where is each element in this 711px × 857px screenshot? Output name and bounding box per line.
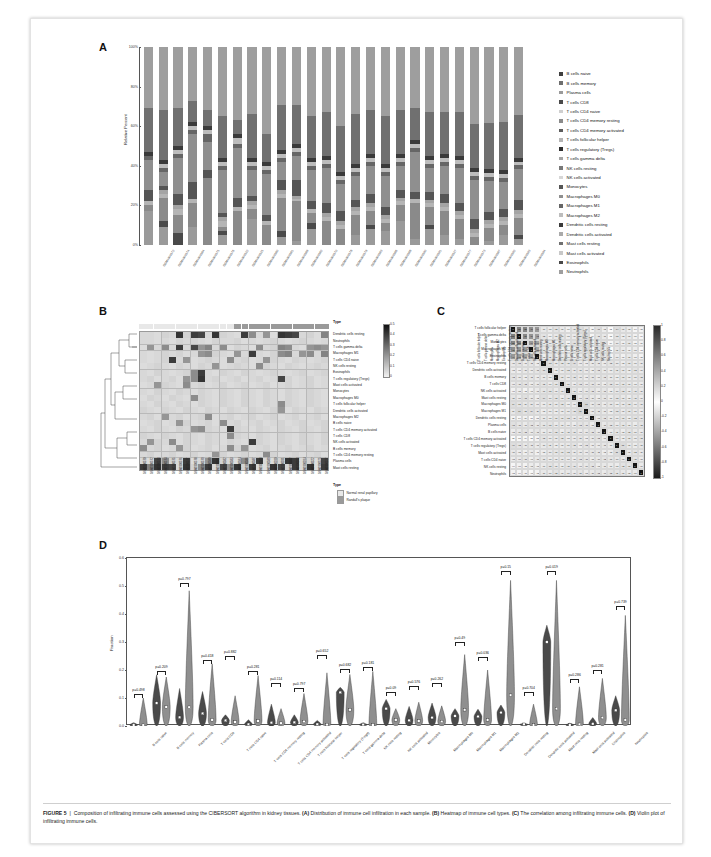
- panel-b-heatmap-cell: [154, 401, 161, 407]
- panel-a-bar-segment: [366, 166, 375, 194]
- panel-d-median-marker: [372, 724, 375, 726]
- panel-b-heatmap-cell: [162, 426, 169, 432]
- panel-b-heatmap-cell: [191, 433, 198, 439]
- panel-b-row-label: Dendritic cells activated: [333, 409, 368, 413]
- panel-b-heatmap-cell: [321, 382, 328, 388]
- panel-a-bar-segment: [455, 239, 464, 245]
- legend-swatch-icon: [559, 176, 563, 180]
- panel-b-heatmap-cell: [220, 433, 227, 439]
- panel-b-heatmap-cell: [292, 395, 299, 401]
- legend-swatch-icon: [559, 213, 563, 217]
- panel-b-heatmap-cell: [307, 439, 314, 445]
- panel-b-type-legend-item[interactable]: Normal renal papillary: [337, 490, 378, 497]
- panel-d-median-marker: [568, 724, 571, 726]
- legend-item[interactable]: NK cells activated: [559, 173, 709, 182]
- panel-c-correlation-cell: -.10: [638, 360, 644, 367]
- panel-a-stacked-bar: [292, 47, 301, 245]
- legend-item[interactable]: Macrophages M0: [559, 192, 709, 201]
- panel-b-group-cell: [278, 324, 285, 329]
- panel-c-row-label: NK cells activated: [481, 389, 506, 393]
- legend-item[interactable]: T cells follicular helper: [559, 135, 709, 144]
- panel-b-heatmap-cell: [162, 357, 169, 363]
- panel-b-heatmap-cell: [198, 395, 205, 401]
- legend-item[interactable]: T cells CD8: [559, 97, 709, 106]
- panel-d-violin-shape: [428, 703, 436, 726]
- panel-b-heatmap-cell: [249, 426, 256, 432]
- panel-b-heatmap-cell: [314, 376, 321, 382]
- panel-d-violin-shape: [461, 655, 469, 726]
- legend-item[interactable]: B cells memory: [559, 78, 709, 87]
- panel-b-heatmap-cell: [285, 433, 292, 439]
- panel-b-heatmap-cell: [220, 426, 227, 432]
- legend-item[interactable]: T cells CD4 naive: [559, 107, 709, 116]
- panel-b-heatmap-cell: [154, 332, 161, 338]
- legend-item[interactable]: Macrophages M1: [559, 201, 709, 210]
- panel-b-heatmap-cell: [147, 395, 154, 401]
- panel-d-significance-bracket: [386, 692, 396, 696]
- panel-c-row-label: Plasma cells: [488, 423, 506, 427]
- panel-a-bar-segment: [203, 47, 212, 110]
- panel-b-column-label: GSM1900582: [224, 457, 227, 474]
- panel-d-x-tick-label: Neutrophils: [634, 731, 649, 746]
- panel-b-heatmap-cell: [154, 395, 161, 401]
- panel-b-heatmap-cell: [162, 407, 169, 413]
- panel-b-heatmap-cell: [307, 351, 314, 357]
- panel-a-bar-segment: [322, 112, 331, 156]
- panel-a-bar-segment: [351, 200, 360, 208]
- panel-a-bar-segment: [173, 158, 182, 194]
- legend-item[interactable]: T cells CD4 memory resting: [559, 116, 709, 125]
- panel-c-correlation-cell: -.12: [638, 435, 644, 442]
- panel-a-tick-mark: [139, 245, 141, 246]
- panel-b-heatmap-cell: [285, 401, 292, 407]
- legend-item[interactable]: Plasma cells: [559, 88, 709, 97]
- panel-b-heatmap-cell: [169, 407, 176, 413]
- panel-b-heatmap-cell: [307, 420, 314, 426]
- panel-b-heatmap-cell: [140, 345, 147, 351]
- legend-item[interactable]: Mast cells activated: [559, 248, 709, 257]
- legend-item[interactable]: Monocytes: [559, 182, 709, 191]
- panel-b-heatmap-cell: [307, 382, 314, 388]
- legend-item[interactable]: Dendritic cells activated: [559, 229, 709, 238]
- panel-b-heatmap-cell: [176, 370, 183, 376]
- panel-a-stacked-bar: [381, 47, 390, 245]
- legend-item[interactable]: Macrophages M2: [559, 211, 709, 220]
- panel-a-x-tick-label: GSM1900589: [296, 249, 310, 267]
- panel-b-column-label: GSM1900577: [187, 457, 190, 474]
- legend-item[interactable]: Neutrophils: [559, 267, 709, 276]
- panel-b-group-cell: [271, 324, 278, 329]
- legend-item[interactable]: Dendritic cells resting: [559, 220, 709, 229]
- panel-b-heatmap-cell: [220, 389, 227, 395]
- panel-a-stacked-bar: [396, 47, 405, 245]
- panel-b-heatmap-cell: [198, 414, 205, 420]
- panel-b-heatmap-cell: [162, 363, 169, 369]
- legend-item[interactable]: T cells gamma delta: [559, 154, 709, 163]
- panel-a-bar-segment: [366, 47, 375, 110]
- legend-item[interactable]: Mast cells resting: [559, 239, 709, 248]
- legend-item[interactable]: NK cells resting: [559, 163, 709, 172]
- panel-c-label: C: [437, 305, 445, 317]
- panel-a-bar-segment: [307, 201, 316, 209]
- legend-swatch-icon: [559, 100, 563, 104]
- legend-item[interactable]: Eosinophils: [559, 258, 709, 267]
- panel-b-type-legend-item[interactable]: Randall's plaque: [337, 497, 370, 504]
- legend-item[interactable]: B cells naive: [559, 69, 709, 78]
- panel-a-bar-segment: [470, 180, 479, 220]
- panel-b-heatmap-cell: [220, 395, 227, 401]
- panel-b-column-label: GSM1900593: [297, 457, 300, 474]
- panel-b-heatmap-cell: [220, 420, 227, 426]
- panel-d-median-marker: [431, 716, 434, 719]
- panel-b-heatmap-cell: [263, 395, 270, 401]
- panel-b-heatmap-cell: [227, 395, 234, 401]
- panel-b-heatmap-cell: [234, 407, 241, 413]
- panel-b-heatmap-cell: [249, 433, 256, 439]
- panel-a-x-tick-label: GSM1900578: [340, 249, 354, 267]
- legend-item[interactable]: T cells regulatory (Tregs): [559, 145, 709, 154]
- panel-b-heatmap-cell: [205, 420, 212, 426]
- panel-b-heatmap-cell: [299, 370, 306, 376]
- panel-a-bar-segment: [173, 47, 182, 108]
- panel-b-heatmap-cell: [140, 351, 147, 357]
- panel-a-bar-segment: [322, 47, 331, 112]
- panel-a-legend: B cells naiveB cells memoryPlasma cellsT…: [559, 69, 709, 277]
- legend-item[interactable]: T cells CD4 memory activated: [559, 126, 709, 135]
- panel-b-heatmap-cell: [154, 357, 161, 363]
